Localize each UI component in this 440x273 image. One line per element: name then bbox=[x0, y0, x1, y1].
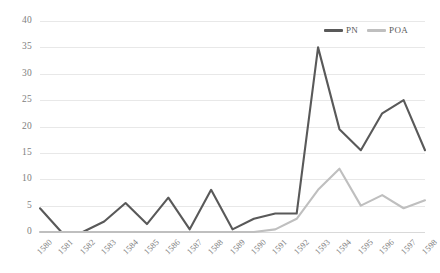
legend-label-poa: POA bbox=[389, 26, 408, 35]
y-tick-label: 5 bbox=[0, 201, 32, 211]
gridline bbox=[40, 74, 425, 75]
y-tick-label: 10 bbox=[0, 174, 32, 184]
legend-swatch-pn bbox=[324, 29, 343, 31]
gridline bbox=[40, 179, 425, 180]
legend-entry-poa: POA bbox=[367, 26, 408, 35]
gridline bbox=[40, 127, 425, 128]
gridline bbox=[40, 47, 425, 48]
y-tick-label: 0 bbox=[0, 227, 32, 237]
axis-baseline bbox=[40, 232, 425, 233]
gridline bbox=[40, 206, 425, 207]
y-tick-label: 20 bbox=[0, 122, 32, 132]
legend-entry-pn: PN bbox=[324, 26, 358, 35]
line-chart: 0510152025303540 15801581158215831584158… bbox=[0, 0, 440, 273]
y-tick-label: 25 bbox=[0, 95, 32, 105]
legend-swatch-poa bbox=[367, 29, 386, 31]
gridline bbox=[40, 100, 425, 101]
y-tick-label: 35 bbox=[0, 42, 32, 52]
gridline bbox=[40, 153, 425, 154]
plot-area bbox=[40, 21, 425, 232]
legend: PN POA bbox=[324, 26, 408, 35]
y-tick-label: 40 bbox=[0, 16, 32, 26]
y-tick-label: 30 bbox=[0, 69, 32, 79]
legend-label-pn: PN bbox=[346, 26, 358, 35]
y-tick-label: 15 bbox=[0, 148, 32, 158]
gridline bbox=[40, 21, 425, 22]
